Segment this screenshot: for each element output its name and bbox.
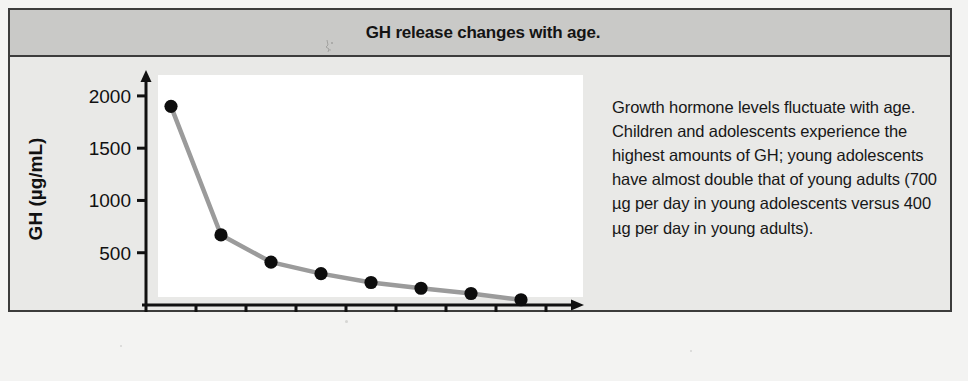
y-tick-label: 500 — [99, 243, 131, 264]
plot-background — [158, 75, 583, 297]
paper-speck — [345, 320, 348, 323]
figure-caption: Growth hormone levels fluctuate with age… — [612, 95, 942, 240]
line-chart: 500100015002000 01020304050607080 GH (µg… — [10, 57, 610, 312]
paper-speck — [120, 345, 122, 347]
y-tick-group: 500100015002000 — [89, 86, 146, 264]
y-tick-label: 2000 — [89, 86, 131, 107]
chart-svg: 500100015002000 01020304050607080 GH (µg… — [10, 57, 610, 312]
paper-speck — [690, 350, 692, 352]
y-axis-arrow-icon — [141, 70, 152, 82]
page-title: GH release changes with age. — [366, 23, 600, 43]
figure-title-bar: GH release changes with age. — [10, 10, 950, 57]
y-tick-label: 1000 — [89, 190, 131, 211]
y-tick-label: 1500 — [89, 138, 131, 159]
data-point — [464, 287, 477, 300]
data-point — [514, 293, 527, 306]
data-point — [414, 282, 427, 295]
y-axis — [141, 70, 152, 305]
data-point — [264, 256, 277, 269]
ink-smudge-icon — [323, 38, 340, 55]
y-axis-label: GH (µg/mL) — [25, 138, 46, 241]
figure-frame: GH release changes with age. — [8, 8, 952, 312]
data-point — [214, 228, 227, 241]
data-point — [364, 276, 377, 289]
x-axis-arrow-icon — [571, 300, 584, 311]
data-point — [314, 267, 327, 280]
figure-panel: GH release changes with age. — [0, 0, 968, 381]
figure-body: 500100015002000 01020304050607080 GH (µg… — [10, 57, 950, 310]
data-point — [164, 100, 177, 113]
